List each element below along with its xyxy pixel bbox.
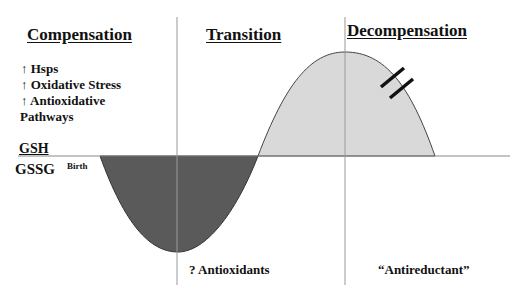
list-item: ↑ Hsps <box>21 61 121 77</box>
list-item: ↑ Oxidative Stress <box>21 77 121 93</box>
phase-title-decompensation: Decompensation <box>347 21 467 41</box>
negative-lobe <box>100 156 258 252</box>
phase-title-compensation: Compensation <box>27 25 132 45</box>
list-item: Pathways <box>20 109 121 125</box>
up-arrow-icon: ↑ <box>21 77 28 92</box>
compensation-list: ↑ Hsps ↑ Oxidative Stress ↑ Antioxidativ… <box>21 61 121 125</box>
decompensation-bottom-label: “Antireductant” <box>378 262 469 278</box>
list-item: ↑ Antioxidative <box>21 93 121 109</box>
up-arrow-icon: ↑ <box>21 61 28 76</box>
ratio-numerator: GSH <box>19 141 49 157</box>
positive-lobe <box>258 52 435 156</box>
up-arrow-icon: ↑ <box>21 93 28 108</box>
transition-bottom-label: ? Antioxidants <box>189 262 270 278</box>
phase-title-transition: Transition <box>206 25 281 45</box>
birth-label: Birth <box>67 161 88 171</box>
ratio-denominator: GSSG <box>15 161 55 178</box>
